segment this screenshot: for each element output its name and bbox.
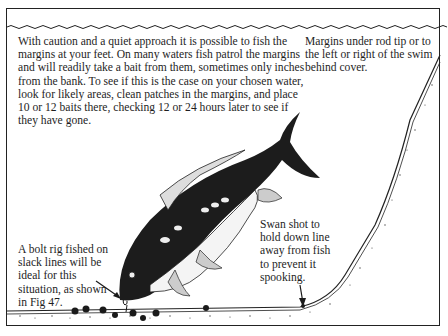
swan-shot [301,304,305,308]
main-caption: With caution and a quiet approach it is … [18,35,308,127]
margins-caption: Margins under rod tip or to the left or … [305,35,435,75]
bolt-rig-caption: A bolt rig fished on slack lines will be… [18,243,118,309]
water-surface-line [7,26,447,29]
swan-shot-caption: Swan shot to hold down line away from fi… [260,218,340,284]
